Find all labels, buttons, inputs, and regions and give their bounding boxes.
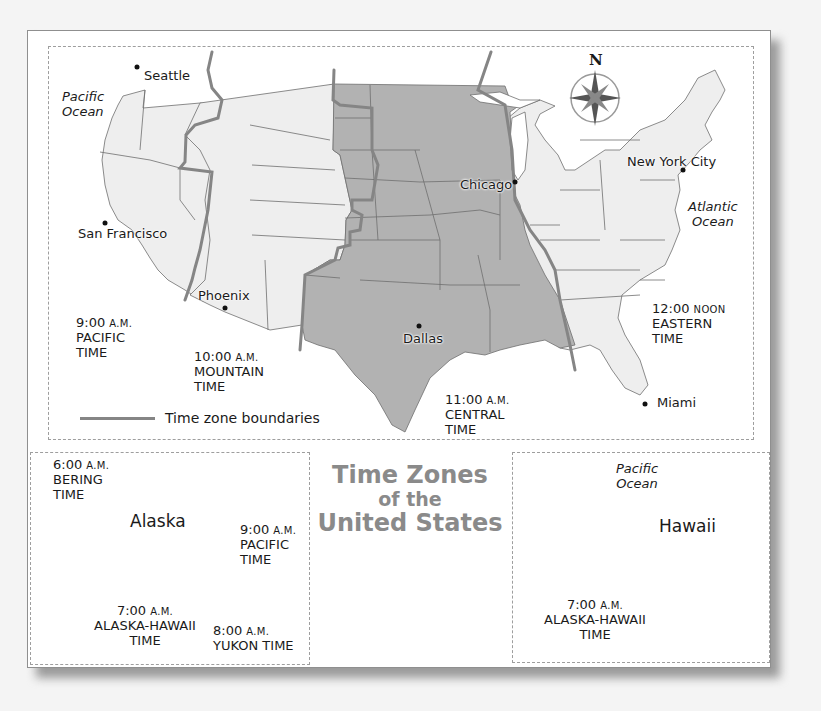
zone-suffix: A.M. bbox=[236, 352, 259, 363]
zone-time: 9:00 bbox=[240, 522, 269, 537]
pacific-ocean-line1: Pacific bbox=[62, 89, 104, 104]
chicago-dot bbox=[513, 180, 518, 185]
zone-time: 7:00 bbox=[117, 603, 146, 618]
zone-label-eastern: 12:00 NOON EASTERN TIME bbox=[652, 302, 726, 347]
zone-word: TIME bbox=[445, 422, 476, 437]
boundary-line-swatch-icon bbox=[80, 417, 155, 420]
atlantic-ocean-label: Atlantic Ocean bbox=[688, 200, 738, 230]
zone-suffix: A.M. bbox=[246, 626, 269, 637]
legend-label: Time zone boundaries bbox=[165, 410, 320, 426]
zone-suffix: A.M. bbox=[487, 395, 510, 406]
zone-word: TIME bbox=[194, 379, 225, 394]
zone-name: MOUNTAIN bbox=[194, 364, 264, 379]
zone-word: TIME bbox=[53, 487, 84, 502]
ocean-line2: Ocean bbox=[616, 476, 658, 491]
zone-suffix: A.M. bbox=[600, 600, 623, 611]
zone-label-central: 11:00 A.M. CENTRAL TIME bbox=[445, 393, 509, 438]
seattle-dot bbox=[135, 65, 140, 70]
title-line1: Time Zones bbox=[310, 462, 510, 489]
city-label-chicago: Chicago bbox=[460, 177, 512, 192]
city-label-miami: Miami bbox=[657, 395, 696, 410]
ocean-line1: Pacific bbox=[616, 461, 658, 476]
zone-word: TIME bbox=[240, 552, 271, 567]
zone-word: TIME bbox=[652, 331, 683, 346]
zone-time: 8:00 bbox=[213, 623, 242, 638]
zone-suffix: A.M. bbox=[109, 318, 132, 329]
hawaii-label: Hawaii bbox=[659, 517, 716, 537]
zone-time: 9:00 bbox=[76, 315, 105, 330]
zone-time: 10:00 bbox=[194, 349, 231, 364]
alaska-zone-label-yukon: 8:00 A.M. YUKON TIME bbox=[213, 624, 294, 654]
zone-name: PACIFIC bbox=[240, 537, 289, 552]
city-label-seattle: Seattle bbox=[144, 68, 190, 83]
zone-word: TIME bbox=[129, 633, 160, 648]
title-line2: of the bbox=[310, 489, 510, 510]
zone-word: TIME bbox=[76, 345, 107, 360]
alaska-label: Alaska bbox=[130, 512, 186, 532]
zone-time: 7:00 bbox=[567, 597, 596, 612]
phoenix-dot bbox=[223, 306, 228, 311]
zone-suffix: A.M. bbox=[273, 525, 296, 536]
title-line3: United States bbox=[310, 510, 510, 537]
zone-name: ALASKA-HAWAII bbox=[94, 618, 196, 633]
hawaii-ocean-label: Pacific Ocean bbox=[612, 462, 662, 492]
zone-label-pacific: 9:00 A.M. PACIFIC TIME bbox=[76, 316, 132, 361]
zone-name: BERING bbox=[53, 472, 103, 487]
zone-suffix: NOON bbox=[694, 304, 726, 315]
zone-suffix: A.M. bbox=[86, 460, 109, 471]
alaska-zone-label-bering: 6:00 A.M. BERING TIME bbox=[53, 458, 109, 503]
zone-name: CENTRAL bbox=[445, 407, 505, 422]
hawaii-zone-label: 7:00 A.M. ALASKA-HAWAII TIME bbox=[535, 598, 655, 643]
alaska-zone-label-pacific: 9:00 A.M. PACIFIC TIME bbox=[240, 523, 296, 568]
atlantic-ocean-line1: Atlantic bbox=[688, 199, 738, 214]
map-title: Time Zones of the United States bbox=[310, 462, 510, 537]
zone-name: YUKON TIME bbox=[213, 638, 294, 653]
map-legend: Time zone boundaries bbox=[80, 410, 320, 426]
zone-suffix: A.M. bbox=[150, 606, 173, 617]
city-label-dallas: Dallas bbox=[403, 331, 443, 346]
dallas-dot bbox=[417, 324, 422, 329]
zone-time: 6:00 bbox=[53, 457, 82, 472]
zone-name: PACIFIC bbox=[76, 330, 125, 345]
city-label-phoenix: Phoenix bbox=[198, 288, 250, 303]
compass-north-label: N bbox=[589, 52, 603, 69]
pacific-ocean-label: Pacific Ocean bbox=[62, 90, 104, 120]
city-label-new-york-city: New York City bbox=[627, 154, 716, 169]
zone-word: TIME bbox=[579, 627, 610, 642]
miami-dot bbox=[643, 402, 648, 407]
pacific-ocean-line2: Ocean bbox=[62, 104, 104, 119]
compass-rose-icon bbox=[569, 70, 621, 126]
zone-name: EASTERN bbox=[652, 316, 712, 331]
zone-time: 11:00 bbox=[445, 392, 482, 407]
zone-name: ALASKA-HAWAII bbox=[544, 612, 646, 627]
atlantic-ocean-line2: Ocean bbox=[692, 214, 734, 229]
city-label-san-francisco: San Francisco bbox=[78, 226, 167, 241]
zone-time: 12:00 bbox=[652, 301, 689, 316]
alaska-zone-label-alaska-hawaii: 7:00 A.M. ALASKA-HAWAII TIME bbox=[90, 604, 200, 649]
san-francisco-dot bbox=[103, 221, 108, 226]
zone-label-mountain: 10:00 A.M. MOUNTAIN TIME bbox=[194, 350, 264, 395]
